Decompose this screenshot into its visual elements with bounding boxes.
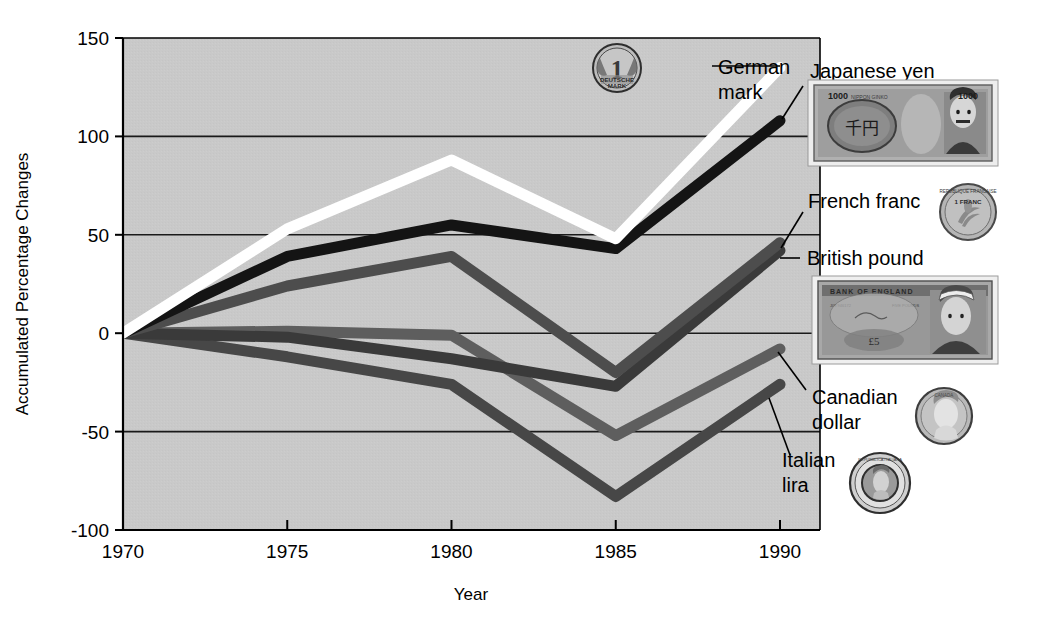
french-franc-denomination: 1 FRANC xyxy=(955,198,982,205)
japanese-yen-banknote-icon: 千円 1000 1000 NIPPON GINKO xyxy=(808,80,998,166)
french-franc-coin-icon: 1 FRANC REPUBLIQUE FRANCAISE xyxy=(939,184,996,240)
y-tick-label--100: -100 xyxy=(71,520,109,541)
label-german-mark-line1: German xyxy=(718,56,790,78)
chart-figure: 150100500-50-100 19701975198019851990 Ac… xyxy=(0,0,1050,637)
canadian-dollar-text: CANADA xyxy=(935,393,954,398)
label-british-pound: British pound xyxy=(807,247,924,269)
x-tick-label-1970: 1970 xyxy=(102,541,144,562)
canadian-dollar-coin-icon: CANADA xyxy=(916,388,972,444)
label-japanese-yen: Japanese yen xyxy=(810,60,935,82)
y-tick-label--50: -50 xyxy=(82,422,109,443)
japanese-yen-bank-text: NIPPON GINKO xyxy=(851,94,888,100)
y-tick-label-100: 100 xyxy=(77,126,109,147)
italian-lira-coin-icon: REPUBBLICA ITALIANA xyxy=(850,453,910,513)
y-tick-label-150: 150 xyxy=(77,28,109,49)
japanese-yen-kanji: 千円 xyxy=(845,118,879,138)
x-tick-label-1990: 1990 xyxy=(759,541,801,562)
german-mark-coin-icon: 1 DEUTSCHE MARK xyxy=(593,44,641,92)
japanese-yen-denomination-left: 1000 xyxy=(828,91,848,101)
british-pound-denomination: £5 xyxy=(869,335,881,347)
x-tick-label-1980: 1980 xyxy=(430,541,472,562)
label-canadian-dollar-line2: dollar xyxy=(812,411,861,433)
x-axis-title: Year xyxy=(454,585,489,604)
label-italian-lira-line2: lira xyxy=(782,474,810,496)
japanese-yen-denomination-right: 1000 xyxy=(958,91,978,101)
label-italian-lira-line1: Italian xyxy=(782,449,835,471)
german-mark-text-line2: MARK xyxy=(608,82,627,89)
x-tick-label-1985: 1985 xyxy=(595,541,637,562)
y-tick-label-0: 0 xyxy=(98,323,109,344)
label-german-mark-line2: mark xyxy=(718,81,763,103)
french-franc-text-top: REPUBLIQUE FRANCAISE xyxy=(939,189,996,194)
italian-lira-text: REPUBBLICA ITALIANA xyxy=(858,457,902,462)
y-tick-label-50: 50 xyxy=(88,225,109,246)
y-axis-title: Accumulated Percentage Changes xyxy=(13,153,32,416)
currency-percentage-change-chart: 150100500-50-100 19701975198019851990 Ac… xyxy=(0,0,1050,637)
label-french-franc: French franc xyxy=(808,190,920,212)
british-pound-banknote-icon: BANK OF ENGLAND J08 946172 FIVE POUNDS J… xyxy=(812,276,998,364)
x-tick-label-1975: 1975 xyxy=(266,541,308,562)
label-canadian-dollar-line1: Canadian xyxy=(812,386,898,408)
